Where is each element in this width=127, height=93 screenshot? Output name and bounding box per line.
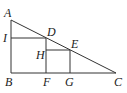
label-h: H	[36, 49, 45, 61]
geometry-figure	[0, 0, 127, 93]
label-i: I	[3, 32, 7, 44]
label-f: F	[43, 76, 50, 88]
label-b: B	[5, 76, 12, 88]
label-g: G	[65, 76, 74, 88]
label-a: A	[4, 7, 11, 19]
segment-ac	[11, 20, 116, 73]
label-d: D	[47, 26, 56, 38]
label-c: C	[114, 76, 122, 88]
label-e: E	[71, 38, 78, 50]
